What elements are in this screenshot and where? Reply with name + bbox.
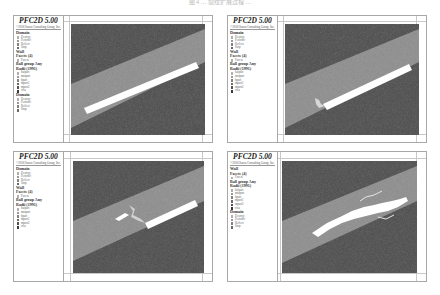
legend-title: PFC2D 5.00: [16, 153, 61, 161]
legend-swatch-icon: [231, 226, 233, 229]
legend-title: PFC2D 5.00: [230, 17, 275, 25]
plot-frame: [64, 16, 212, 142]
legend-swatch-icon: [17, 183, 19, 186]
panel-a: PFC2D 5.00 ©2016 Itasca Consulting Group…: [13, 15, 213, 143]
legend-item: Facets: [16, 59, 61, 63]
plot-area: [282, 161, 417, 273]
legend: PFC2D 5.00 ©2016 Itasca Consulting Group…: [14, 16, 64, 142]
legend-swatch-icon: [231, 59, 233, 62]
legend-swatch-icon: [231, 207, 233, 210]
legend-item: Facets: [16, 195, 61, 199]
legend-swatch-icon: [17, 47, 19, 50]
legend-title: PFC2D 5.00: [230, 153, 275, 161]
legend-item: Stop: [16, 108, 61, 112]
legend: PFC2D 5.00 ©2016 Itasca Consulting Group…: [228, 16, 278, 142]
plot-frame: [64, 152, 212, 281]
legend-swatch-icon: [231, 177, 233, 180]
legend-item: Stop: [16, 46, 61, 50]
legend-body: DomainDestroyPeriodicReflectStopWallFace…: [16, 31, 61, 112]
panel-d: PFC2D 5.00 ©2016 Itasca Consulting Group…: [227, 151, 427, 282]
legend-item: cfsa: [16, 225, 61, 229]
plot-area: [71, 24, 205, 135]
legend: PFC2D 5.00 ©2016 Itasca Consulting Group…: [228, 152, 278, 281]
legend-title: PFC2D 5.00: [16, 17, 61, 25]
plot-frame: [278, 16, 426, 142]
legend-item: cfsa: [230, 207, 275, 211]
particle-model-view: [73, 161, 204, 273]
legend-swatch-icon: [231, 90, 233, 93]
legend-swatch-icon: [17, 226, 19, 229]
legend-body: DomainDestroyPeriodicReflectStopWallFace…: [16, 167, 61, 229]
legend-item: Facets: [230, 176, 275, 180]
legend-item: cfsa: [16, 89, 61, 93]
legend-item: Stop: [230, 46, 275, 50]
legend-item: Facets: [230, 59, 275, 63]
plot-area: [285, 24, 419, 135]
legend-item: cfsa: [230, 89, 275, 93]
panel-c: PFC2D 5.00 ©2016 Itasca Consulting Group…: [13, 151, 213, 282]
figure-caption: 图 4 … 裂纹扩展过程 …: [0, 0, 440, 6]
plot-area: [73, 161, 204, 273]
legend-body: WallFacets (4)FacetsBall group AnyRadii …: [230, 167, 275, 229]
legend-item: Stop: [230, 225, 275, 229]
particle-model-view: [71, 24, 205, 135]
legend-body: DomainDestroyPeriodicReflectStopWallFace…: [230, 31, 275, 93]
legend-item: Stop: [16, 182, 61, 186]
legend-swatch-icon: [17, 90, 19, 93]
legend-swatch-icon: [17, 59, 19, 62]
particle-model-view: [285, 24, 419, 135]
legend: PFC2D 5.00 ©2016 Itasca Consulting Group…: [14, 152, 64, 281]
panel-b: PFC2D 5.00 ©2016 Itasca Consulting Group…: [227, 15, 427, 143]
legend-swatch-icon: [17, 195, 19, 198]
legend-swatch-icon: [17, 109, 19, 112]
plot-frame: [278, 152, 426, 281]
particle-model-view: [282, 161, 417, 273]
legend-swatch-icon: [231, 47, 233, 50]
